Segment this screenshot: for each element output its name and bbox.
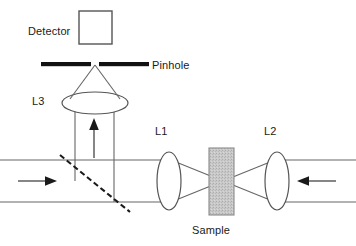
lens-l3-label: L3	[32, 96, 44, 107]
detector-box[interactable]	[79, 11, 112, 44]
beam-splitter[interactable]	[60, 155, 130, 212]
beam-direction-arrow-left	[297, 176, 336, 186]
lens-l1-label: L1	[155, 126, 167, 137]
lens-l2-label: L2	[264, 126, 276, 137]
optical-diagram: Detector Pinhole L3 L1 L2 Sample	[0, 0, 356, 246]
detector-label: Detector	[28, 26, 70, 37]
sample-slab[interactable]	[209, 148, 234, 215]
beam-direction-arrow-right	[18, 176, 57, 186]
sample-label: Sample	[192, 225, 230, 236]
lens-l1[interactable]	[157, 152, 181, 210]
lens-l2[interactable]	[265, 152, 289, 210]
lens-l3[interactable]	[62, 92, 128, 114]
beam-direction-arrow-up	[89, 118, 99, 158]
pinhole-label: Pinhole	[152, 60, 189, 71]
